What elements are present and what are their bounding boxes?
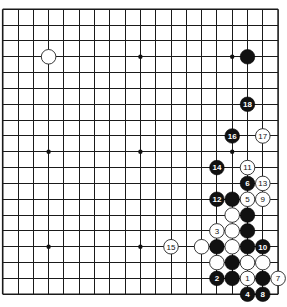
star-point — [46, 150, 50, 154]
stone-disc — [41, 49, 56, 64]
move-number-label: 2 — [215, 274, 220, 283]
black-stone: 6 — [240, 176, 255, 191]
black-stone: 8 — [255, 287, 270, 302]
white-stone: 1 — [240, 271, 255, 286]
black-stone: 14 — [210, 160, 225, 175]
white-stone — [225, 208, 240, 223]
white-stone: 11 — [240, 160, 255, 175]
move-number-label: 17 — [258, 132, 267, 141]
star-point — [138, 245, 142, 249]
move-number-label: 3 — [215, 227, 220, 236]
black-stone: 2 — [210, 271, 225, 286]
stone-disc — [225, 239, 240, 254]
stone-disc — [225, 271, 240, 286]
star-point — [230, 150, 234, 154]
stone-disc — [240, 224, 255, 239]
star-point — [46, 245, 50, 249]
stone-disc — [225, 192, 240, 207]
stone-disc — [240, 239, 255, 254]
stone-disc — [240, 255, 255, 270]
move-number-label: 8 — [261, 290, 266, 299]
white-stone: 17 — [255, 129, 270, 144]
move-number-label: 1 — [245, 274, 250, 283]
star-point — [230, 55, 234, 59]
black-stone — [225, 192, 240, 207]
move-number-label: 18 — [243, 100, 252, 109]
stone-disc — [255, 255, 270, 270]
white-stone — [225, 224, 240, 239]
white-stone — [255, 255, 270, 270]
black-stone: 4 — [240, 287, 255, 302]
black-stone — [255, 271, 270, 286]
white-stone: 13 — [255, 176, 270, 191]
move-number-label: 6 — [245, 179, 250, 188]
stone-disc — [194, 239, 209, 254]
move-number-label: 15 — [167, 243, 176, 252]
black-stone: 12 — [210, 192, 225, 207]
white-stone: 9 — [255, 192, 270, 207]
black-stone — [240, 224, 255, 239]
move-number-label: 12 — [212, 195, 221, 204]
stone-disc — [210, 255, 225, 270]
black-stone — [210, 239, 225, 254]
white-stone — [41, 49, 56, 64]
black-stone — [240, 49, 255, 64]
black-stone — [225, 271, 240, 286]
move-number-label: 7 — [276, 274, 281, 283]
stone-disc — [240, 49, 255, 64]
black-stone — [225, 255, 240, 270]
go-board: 181617141161312593151021748 — [0, 0, 287, 307]
move-number-label: 9 — [261, 195, 266, 204]
white-stone: 7 — [271, 271, 286, 286]
move-number-label: 5 — [245, 195, 250, 204]
black-stone: 10 — [255, 239, 270, 254]
black-stone: 16 — [225, 129, 240, 144]
move-number-label: 4 — [245, 290, 250, 299]
move-number-label: 13 — [258, 179, 267, 188]
white-stone: 3 — [210, 224, 225, 239]
white-stone — [210, 255, 225, 270]
stone-disc — [240, 208, 255, 223]
stone-disc — [225, 255, 240, 270]
stone-disc — [210, 239, 225, 254]
move-number-label: 16 — [228, 132, 237, 141]
stones: 181617141161312593151021748 — [41, 49, 285, 301]
move-number-label: 14 — [212, 163, 221, 172]
white-stone — [225, 239, 240, 254]
move-number-label: 11 — [243, 163, 252, 172]
stone-disc — [225, 208, 240, 223]
move-number-label: 10 — [258, 243, 267, 252]
black-stone: 18 — [240, 97, 255, 112]
star-point — [138, 150, 142, 154]
black-stone — [240, 208, 255, 223]
white-stone: 5 — [240, 192, 255, 207]
star-point — [138, 55, 142, 59]
stone-disc — [255, 271, 270, 286]
stone-disc — [225, 224, 240, 239]
white-stone — [194, 239, 209, 254]
white-stone: 15 — [164, 239, 179, 254]
white-stone — [240, 255, 255, 270]
black-stone — [240, 239, 255, 254]
